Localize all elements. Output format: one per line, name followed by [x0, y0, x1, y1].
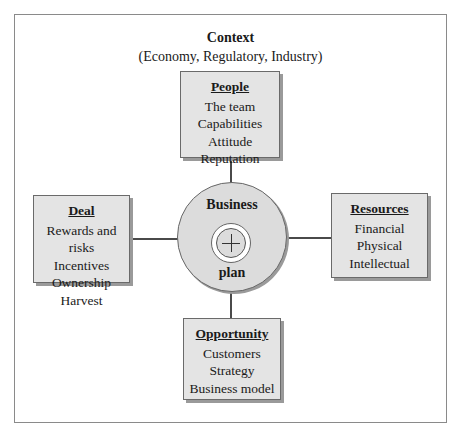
- deal-box: Deal Rewards and risks Incentives Owners…: [33, 195, 130, 283]
- resources-title: Resources: [332, 200, 427, 218]
- people-item: Attitude: [181, 133, 279, 151]
- resources-item: Financial: [332, 220, 427, 238]
- people-title: People: [181, 78, 279, 96]
- deal-item: Incentives: [34, 257, 129, 275]
- opportunity-title: Opportunity: [184, 325, 280, 343]
- opportunity-box: Opportunity Customers Strategy Business …: [183, 318, 281, 400]
- connector-resources: [286, 237, 332, 239]
- context-subtitle: (Economy, Regulatory, Industry): [0, 49, 461, 65]
- opportunity-item: Strategy: [184, 362, 280, 380]
- deal-item: Rewards and risks: [34, 222, 129, 257]
- deal-item: Harvest: [34, 292, 129, 310]
- business-plan-label-bottom: plan: [177, 265, 287, 281]
- resources-item: Physical: [332, 237, 427, 255]
- people-box: People The team Capabilities Attitude Re…: [180, 71, 280, 158]
- people-item: Reputation: [181, 150, 279, 168]
- connector-deal: [130, 238, 178, 240]
- business-plan-label-top: Business: [177, 197, 287, 213]
- deal-title: Deal: [34, 202, 129, 220]
- plus-icon: [231, 234, 232, 252]
- resources-item: Intellectual: [332, 255, 427, 273]
- people-item: The team: [181, 98, 279, 116]
- resources-box: Resources Financial Physical Intellectua…: [331, 193, 428, 278]
- opportunity-item: Business model: [184, 380, 280, 398]
- people-item: Capabilities: [181, 115, 279, 133]
- connector-opportunity: [230, 292, 232, 319]
- context-title: Context: [0, 30, 461, 46]
- opportunity-item: Customers: [184, 345, 280, 363]
- deal-item: Ownership: [34, 274, 129, 292]
